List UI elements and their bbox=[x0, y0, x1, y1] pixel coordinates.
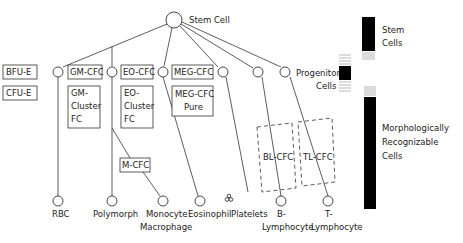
svg-text:Cluster: Cluster bbox=[124, 101, 155, 111]
progenitor-bar bbox=[339, 55, 351, 91]
svg-text:MEG-CFC: MEG-CFC bbox=[174, 67, 213, 77]
svg-text:FC: FC bbox=[71, 114, 82, 124]
svg-text:B-: B- bbox=[277, 209, 286, 219]
svg-text:FC: FC bbox=[124, 114, 135, 124]
progenitor-label-1: Progenitor bbox=[296, 68, 340, 78]
progenitor-box-meg-cfc: MEG-CFC bbox=[172, 65, 213, 79]
svg-text:Cluster: Cluster bbox=[71, 101, 102, 111]
mature-cells-bar bbox=[364, 87, 376, 209]
svg-text:T-: T- bbox=[324, 209, 332, 219]
svg-text:Lymphocyte: Lymphocyte bbox=[262, 222, 314, 232]
legend-mature-line2: Recognizable bbox=[382, 137, 438, 147]
svg-text:Pure: Pure bbox=[184, 102, 203, 112]
svg-text:M-CFC: M-CFC bbox=[122, 160, 149, 170]
legend-mature-line3: Cells bbox=[382, 151, 403, 161]
cell-lineage-diagram: Stem Cell Progenitor Cells BFU-E GM-CFC … bbox=[0, 0, 463, 243]
stem-connectors bbox=[63, 22, 281, 68]
legend-mature-line1: Morphologically bbox=[382, 123, 449, 133]
legend-stem-line1: Stem bbox=[382, 25, 404, 35]
svg-text:Platelets: Platelets bbox=[231, 209, 268, 219]
progenitor-box-eo-cluster: EO- Cluster FC bbox=[121, 86, 155, 128]
svg-text:Eosinophil: Eosinophil bbox=[188, 209, 231, 219]
progenitor-box-meg-pure: MEG-CFC Pure bbox=[172, 86, 214, 116]
svg-text:GM-CFC: GM-CFC bbox=[70, 67, 104, 77]
progenitor-label-2: Cells bbox=[316, 81, 337, 91]
dashed-box-bl-cfc: BL-CFC bbox=[257, 123, 296, 192]
progenitor-box-gm-cluster: GM- Cluster FC bbox=[68, 86, 102, 128]
stem-cell-node bbox=[166, 12, 182, 28]
svg-text:Macrophage: Macrophage bbox=[140, 222, 192, 232]
svg-text:GM-: GM- bbox=[71, 88, 88, 98]
stem-cell-label: Stem Cell bbox=[189, 15, 230, 25]
svg-text:Polymorph: Polymorph bbox=[93, 209, 138, 219]
svg-text:TL-CFC: TL-CFC bbox=[302, 152, 333, 162]
svg-text:MEG-CFC: MEG-CFC bbox=[175, 89, 214, 99]
svg-text:RBC: RBC bbox=[52, 209, 70, 219]
mature-cell-nodes bbox=[53, 196, 333, 206]
svg-text:Monocyte: Monocyte bbox=[146, 209, 187, 219]
legend-stem-line2: Cells bbox=[382, 38, 403, 48]
platelets-icon bbox=[225, 194, 233, 201]
progenitor-box-gm-cfc: GM-CFC bbox=[68, 65, 104, 79]
svg-text:EO-CFC: EO-CFC bbox=[123, 67, 155, 77]
progenitor-box-bfu-e: BFU-E bbox=[3, 65, 37, 79]
progenitor-box-cfu-e: CFU-E bbox=[3, 86, 37, 100]
svg-text:CFU-E: CFU-E bbox=[6, 88, 31, 98]
svg-text:BL-CFC: BL-CFC bbox=[263, 152, 293, 162]
svg-text:Lymphocyte: Lymphocyte bbox=[311, 222, 363, 232]
svg-text:BFU-E: BFU-E bbox=[6, 67, 31, 77]
progenitor-box-eo-cfc: EO-CFC bbox=[121, 65, 155, 79]
progenitor-box-m-cfc: M-CFC bbox=[120, 158, 150, 172]
dashed-box-tl-cfc: TL-CFC bbox=[298, 118, 335, 186]
stem-cells-bar bbox=[362, 17, 375, 59]
svg-text:EO-: EO- bbox=[124, 88, 139, 98]
mature-cell-labels: RBC Polymorph Monocyte Macrophage Eosino… bbox=[52, 209, 363, 232]
